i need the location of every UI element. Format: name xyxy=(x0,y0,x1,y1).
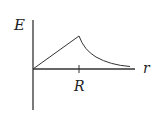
y-axis-label: E xyxy=(13,16,25,34)
x-axis-label: r xyxy=(143,60,151,76)
inverse-square-segment xyxy=(79,36,130,67)
linear-segment xyxy=(33,36,79,69)
tick-label-r: R xyxy=(73,78,85,94)
field-graph: E r R xyxy=(0,0,157,114)
